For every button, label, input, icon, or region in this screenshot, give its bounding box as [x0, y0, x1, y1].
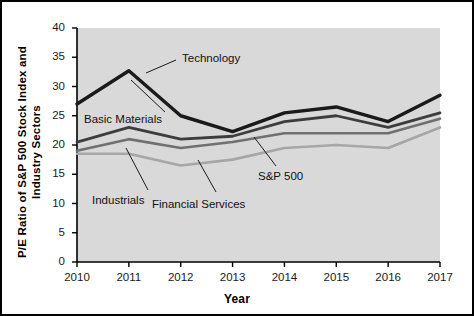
y-axis-tick-label: 5 [41, 226, 65, 238]
y-axis-tick-label: 10 [41, 197, 65, 209]
y-axis-tick-label: 20 [41, 138, 65, 150]
y-axis-tick-label: 15 [41, 167, 65, 179]
y-axis-title-line-1: P/E Ratio of S&P 500 Stock Index and [16, 46, 28, 258]
y-axis-title-line-2: Industry Sectors [30, 105, 42, 199]
series-annotation-label: Basic Materials [84, 113, 162, 125]
x-axis-tick-label: 2015 [313, 271, 359, 283]
series-annotation-label: Technology [182, 52, 240, 64]
y-axis-tick-label: 40 [41, 21, 65, 33]
x-axis-title: Year [0, 292, 474, 306]
x-axis-tick-label: 2011 [106, 271, 152, 283]
y-axis-tick-label: 35 [41, 50, 65, 62]
x-axis-tick-label: 2010 [54, 271, 100, 283]
x-axis-tick-label: 2012 [158, 271, 204, 283]
y-axis-tick-label: 0 [41, 255, 65, 267]
y-axis-title: P/E Ratio of S&P 500 Stock Index and Ind… [15, 27, 43, 277]
x-axis-tick-label: 2017 [417, 271, 463, 283]
series-annotation-label: Financial Services [152, 198, 245, 210]
series-annotation-label: Industrials [92, 194, 144, 206]
x-axis-tick-label: 2013 [210, 271, 256, 283]
chart-figure: 0510152025303540 20102011201220132014201… [0, 0, 474, 316]
y-axis-tick-label: 30 [41, 80, 65, 92]
x-axis-tick-label: 2014 [261, 271, 307, 283]
plot-area-background [77, 28, 440, 262]
y-axis-tick-label: 25 [41, 109, 65, 121]
x-axis-tick-label: 2016 [365, 271, 411, 283]
series-annotation-label: S&P 500 [258, 170, 303, 182]
line-chart-plot [0, 0, 474, 316]
